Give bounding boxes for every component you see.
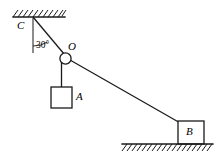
block-a-shape <box>51 87 72 108</box>
label-angle-30-degrees: 30° <box>36 41 49 51</box>
pulley-circle <box>60 53 71 64</box>
label-pulley-o: O <box>68 41 76 52</box>
label-block-a: A <box>76 91 83 102</box>
ground-hatching <box>122 144 212 151</box>
ceiling-support <box>13 10 66 17</box>
figure-canvas <box>0 0 223 167</box>
ceiling-hatching <box>13 10 66 17</box>
rope-o-to-block-b <box>70 60 179 122</box>
label-block-b: B <box>186 126 193 137</box>
label-point-c: C <box>17 20 24 31</box>
mechanics-figure: C O A B 30° <box>0 0 223 167</box>
ground-support <box>122 144 213 151</box>
